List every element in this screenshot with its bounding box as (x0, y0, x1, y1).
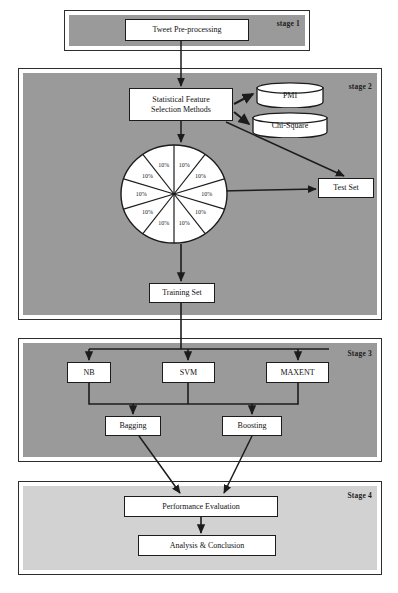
stage-2-label: stage 2 (349, 82, 372, 91)
cylinder-shape-chi-square (252, 112, 328, 138)
node-pmi-datastore[interactable]: PMI (256, 82, 324, 108)
node-svm-label: SVM (180, 368, 197, 378)
feature-distribution-pie-chart: 10%10%10%10%10%10%10%10%10%10% (119, 143, 229, 245)
pie-slice-label: 10% (179, 220, 190, 226)
node-chi-square-datastore[interactable]: Chi-Square (252, 112, 328, 138)
pie-slice-label: 10% (179, 162, 190, 168)
node-statistical-feature-line-1: Statistical Feature (152, 95, 210, 105)
stage-3-label: Stage 3 (347, 349, 372, 358)
node-test-set[interactable]: Test Set (318, 178, 374, 198)
node-nb-label: NB (83, 368, 94, 378)
node-performance-evaluation[interactable]: Performance Evaluation (124, 496, 278, 517)
node-statistical-feature-line-2: Selection Methods (151, 105, 211, 115)
stage-4-label: Stage 4 (347, 491, 372, 500)
pie-slice-label: 10% (142, 209, 153, 215)
node-maxent-label: MAXENT (280, 368, 314, 378)
pie-slice-label: 10% (201, 191, 212, 197)
pie-slice-label: 10% (136, 191, 147, 197)
node-boosting[interactable]: Boosting (222, 416, 282, 436)
pie-slice-label: 10% (195, 209, 206, 215)
node-training-set-label: Training Set (162, 288, 202, 298)
flowchart-diagram: stage 1 Tweet Pre-processing stage 2 Sta… (0, 0, 398, 593)
node-nb-classifier[interactable]: NB (67, 362, 111, 383)
pie-slice-label: 10% (142, 173, 153, 179)
node-tweet-preprocessing-label: Tweet Pre-processing (153, 25, 222, 35)
node-analysis-conclusion[interactable]: Analysis & Conclusion (138, 535, 276, 556)
node-maxent-classifier[interactable]: MAXENT (266, 362, 329, 383)
stage-1-label: stage 1 (277, 19, 300, 28)
node-statistical-feature-selection[interactable]: Statistical Feature Selection Methods (129, 88, 233, 121)
pie-slice-label: 10% (158, 162, 169, 168)
node-bagging[interactable]: Bagging (105, 416, 161, 436)
node-performance-evaluation-label: Performance Evaluation (162, 502, 240, 512)
stage-3-container: Stage 3 (18, 338, 382, 462)
node-analysis-conclusion-label: Analysis & Conclusion (170, 541, 245, 551)
node-boosting-label: Boosting (238, 421, 267, 431)
node-test-set-label: Test Set (333, 183, 358, 193)
node-training-set[interactable]: Training Set (149, 283, 215, 303)
stage-3-body: Stage 3 (23, 343, 377, 457)
node-tweet-preprocessing[interactable]: Tweet Pre-processing (125, 19, 249, 41)
node-bagging-label: Bagging (119, 421, 146, 431)
pie-slice-label: 10% (195, 173, 206, 179)
cylinder-shape-pmi (256, 82, 324, 108)
pie-chart-svg: 10%10%10%10%10%10%10%10%10%10% (119, 143, 229, 245)
pie-slice-label: 10% (158, 220, 169, 226)
node-svm-classifier[interactable]: SVM (162, 362, 215, 383)
